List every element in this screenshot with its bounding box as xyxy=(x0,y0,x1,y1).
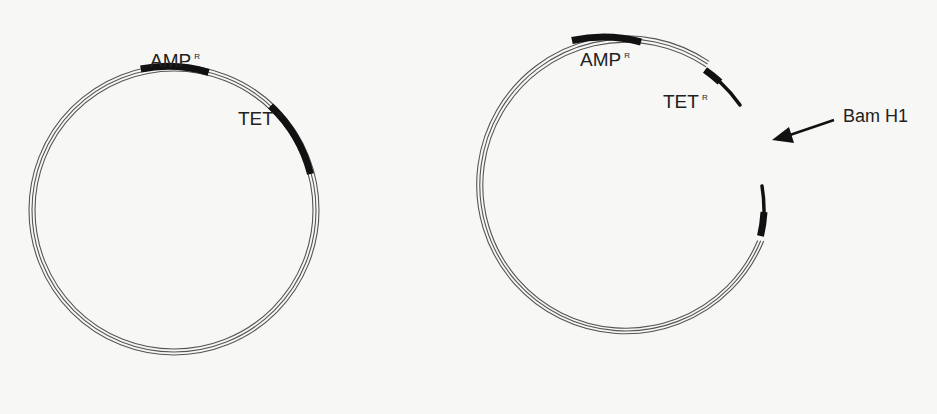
tet-label: TETR xyxy=(663,91,708,112)
cut-site-arrow-icon xyxy=(772,120,834,143)
intact-plasmid: AMPR TETR xyxy=(29,50,319,355)
tet-gene-fragment-upper xyxy=(705,70,720,82)
tet-label: TETR xyxy=(238,108,283,129)
amp-label: AMPR xyxy=(580,49,630,70)
bamh1-label: Bam H1 xyxy=(843,106,908,126)
amp-resistance-gene xyxy=(572,37,641,42)
plasmid-diagram: AMPR TETR AMPR TETR Bam H1 xyxy=(0,0,937,414)
tet-gene-fragment-lower-tail xyxy=(762,186,764,212)
cut-plasmid: AMPR TETR Bam H1 xyxy=(477,36,908,334)
tet-gene-fragment-upper-tail xyxy=(720,82,740,105)
tet-gene-fragment-lower xyxy=(761,212,765,236)
